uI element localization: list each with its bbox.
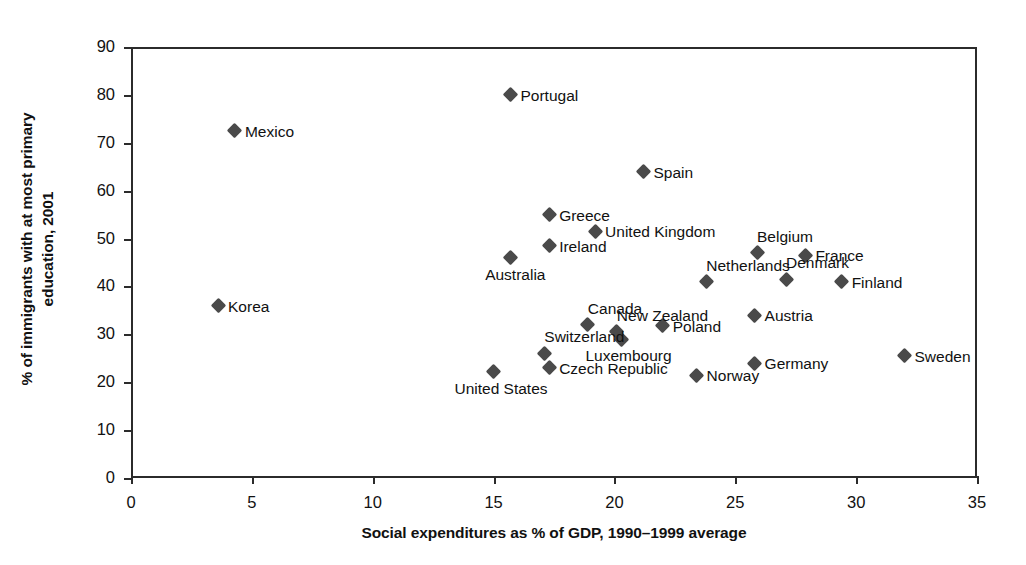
point-label: Norway (707, 368, 760, 384)
diamond-marker[interactable] (503, 250, 519, 266)
diamond-marker[interactable] (698, 274, 714, 290)
diamond-marker[interactable] (778, 271, 794, 287)
point-label: Australia (485, 267, 545, 283)
x-axis-line (131, 476, 977, 478)
axis-right-border (975, 47, 977, 478)
y-tick-label-90: 90 (97, 37, 115, 56)
x-tick-label-10: 10 (364, 493, 382, 512)
diamond-marker[interactable] (210, 298, 226, 314)
y-axis-title: % of immigrants with at most primary edu… (16, 29, 58, 469)
x-tick-label-15: 15 (484, 493, 502, 512)
y-tick-label-20: 20 (97, 372, 115, 391)
diamond-marker[interactable] (834, 274, 850, 290)
x-tick-label-30: 30 (847, 493, 865, 512)
point-label: United Kingdom (605, 224, 715, 240)
axis-top-border (131, 47, 977, 49)
y-tick-30: 30 (124, 334, 133, 336)
diamond-marker[interactable] (689, 367, 705, 383)
point-label: Portugal (520, 88, 578, 104)
y-tick-70: 70 (124, 143, 133, 145)
x-tick-35: 35 (977, 476, 979, 484)
diamond-marker[interactable] (541, 360, 557, 376)
x-tick-label-5: 5 (247, 493, 256, 512)
y-tick-label-40: 40 (97, 277, 115, 296)
point-label: New Zealand (617, 308, 708, 324)
diamond-marker[interactable] (537, 346, 553, 362)
diamond-marker[interactable] (747, 307, 763, 323)
point-label: Finland (852, 275, 903, 291)
y-tick-label-60: 60 (97, 181, 115, 200)
y-axis-line (131, 47, 133, 478)
x-tick-15: 15 (494, 476, 496, 484)
point-label: Austria (765, 308, 813, 324)
point-label: Denmark (786, 255, 849, 271)
x-tick-label-35: 35 (968, 493, 986, 512)
y-tick-40: 40 (124, 286, 133, 288)
y-tick-10: 10 (124, 430, 133, 432)
x-tick-5: 5 (252, 476, 254, 484)
plot-area: 0102030405060708090 05101520253035 Portu… (131, 47, 977, 478)
point-label: Czech Republic (559, 361, 668, 377)
x-tick-label-25: 25 (726, 493, 744, 512)
diamond-marker[interactable] (541, 238, 557, 254)
point-label: Mexico (245, 124, 294, 140)
y-tick-label-10: 10 (97, 420, 115, 439)
diamond-marker[interactable] (227, 123, 243, 139)
diamond-marker[interactable] (897, 348, 913, 364)
y-tick-label-80: 80 (97, 85, 115, 104)
x-axis-title: Social expenditures as % of GDP, 1990–19… (131, 524, 977, 542)
y-tick-60: 60 (124, 191, 133, 193)
y-tick-90: 90 (124, 47, 133, 49)
point-label: Netherlands (706, 258, 790, 274)
diamond-marker[interactable] (541, 207, 557, 223)
diamond-marker[interactable] (486, 364, 502, 380)
y-tick-label-0: 0 (106, 468, 115, 487)
x-tick-0: 0 (131, 476, 133, 484)
y-tick-20: 20 (124, 382, 133, 384)
point-label: Korea (228, 299, 269, 315)
y-tick-label-30: 30 (97, 324, 115, 343)
point-label: United States (454, 381, 547, 397)
x-tick-20: 20 (614, 476, 616, 484)
point-label: Germany (765, 356, 829, 372)
y-tick-label-50: 50 (97, 229, 115, 248)
scatter-chart: % of immigrants with at most primary edu… (0, 0, 1026, 565)
x-tick-25: 25 (735, 476, 737, 484)
x-tick-label-0: 0 (126, 493, 135, 512)
diamond-marker[interactable] (636, 164, 652, 180)
point-label: Sweden (914, 349, 970, 365)
y-tick-80: 80 (124, 95, 133, 97)
point-label: Ireland (559, 239, 606, 255)
y-tick-label-70: 70 (97, 133, 115, 152)
point-label: Switzerland (544, 329, 624, 345)
diamond-marker[interactable] (503, 87, 519, 103)
x-tick-10: 10 (373, 476, 375, 484)
x-tick-30: 30 (856, 476, 858, 484)
y-tick-50: 50 (124, 239, 133, 241)
x-tick-label-20: 20 (605, 493, 623, 512)
diamond-marker[interactable] (587, 224, 603, 240)
point-label: Spain (653, 165, 693, 181)
point-label: Greece (559, 208, 610, 224)
point-label: Belgium (757, 229, 813, 245)
